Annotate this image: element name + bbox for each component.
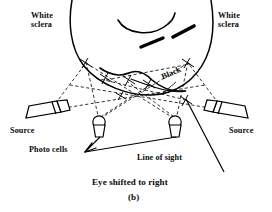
eyelash-dashes-group — [141, 26, 194, 47]
label-line-of-sight: Line of sight — [137, 153, 182, 162]
upper-eyelid-arc — [118, 13, 175, 33]
eyelash-dash-upper — [173, 26, 194, 37]
photo-cells-leader-group — [85, 137, 176, 152]
ray-iris-reflection-right — [96, 78, 186, 100]
label-source-left: Source — [10, 126, 35, 135]
figure-caption: Eye shifted to right — [92, 177, 168, 187]
source-left — [26, 100, 70, 118]
eyelash-dash-lower — [141, 38, 163, 47]
photo-cell-right-body — [170, 125, 182, 137]
subfigure-label: (b) — [128, 192, 139, 202]
source-left-body — [26, 101, 61, 118]
source-right — [204, 100, 248, 118]
node-marker-right-cornea — [182, 58, 194, 68]
photo-cell-right — [169, 116, 181, 137]
source-right-body — [213, 101, 248, 118]
photo-cell-left-body — [94, 125, 106, 137]
label-white-sclera-left: White sclera — [31, 11, 53, 29]
photo-cells-leader-to-right — [85, 137, 176, 152]
label-white-sclera-right: White sclera — [218, 11, 240, 29]
node-marker-center — [123, 75, 135, 86]
photo-cell-left — [93, 116, 105, 137]
label-source-right: Source — [229, 126, 254, 135]
eye-tracker-diagram-figure: White sclera White sclera Black Source S… — [0, 0, 272, 212]
label-photo-cells: Photo cells — [29, 145, 68, 154]
